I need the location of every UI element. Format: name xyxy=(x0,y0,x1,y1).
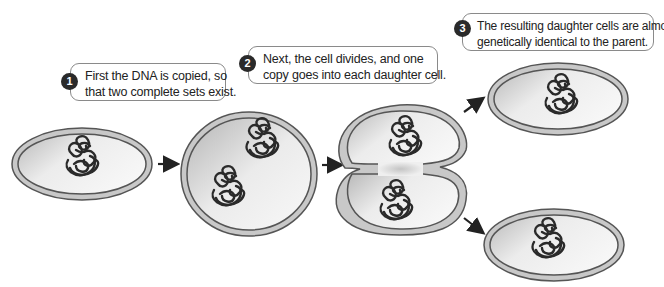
step-2-line-1: Next, the cell divides, and one xyxy=(263,51,429,67)
arrow-icon xyxy=(464,99,482,112)
parent-cell xyxy=(12,128,152,200)
step-1-callout: First the DNA is copied, so that two com… xyxy=(70,63,226,101)
arrow-icon xyxy=(464,218,482,232)
step-3-line-2: genetically identical to the parent. xyxy=(477,34,645,50)
step-3-callout: The resulting daughter cells are almost … xyxy=(462,13,654,51)
step-2-line-2: copy goes into each daughter cell. xyxy=(263,67,429,83)
step-3-badge: 3 xyxy=(454,20,471,37)
dividing-cell xyxy=(336,105,466,235)
daughter-cell-bottom xyxy=(484,209,624,281)
step-1-line-2: that two complete sets exist. xyxy=(85,84,217,100)
step-2-callout: Next, the cell divides, and one copy goe… xyxy=(248,46,438,84)
step-1-line-1: First the DNA is copied, so xyxy=(85,68,217,84)
step-1-badge: 1 xyxy=(61,73,78,90)
step-3-line-1: The resulting daughter cells are almost xyxy=(477,18,645,34)
replicated-cell xyxy=(181,112,317,236)
daughter-cell-top xyxy=(488,63,628,135)
step-2-badge: 2 xyxy=(239,55,256,72)
